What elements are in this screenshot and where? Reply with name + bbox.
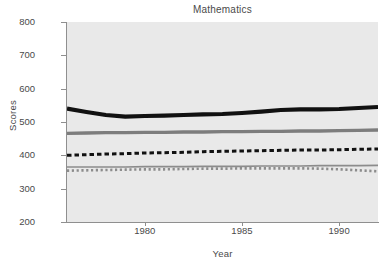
y-tick-mark — [61, 155, 67, 156]
y-tick-mark — [61, 55, 67, 56]
x-tick-mark — [339, 222, 340, 226]
x-tick-label: 1980 — [125, 226, 165, 236]
x-tick-mark — [242, 222, 243, 226]
series-5-gray-dotted — [67, 168, 378, 171]
y-tick-label: 200 — [1, 217, 35, 227]
series-3-black-dashed — [67, 149, 378, 155]
series-4-gray-thin — [67, 165, 378, 167]
y-tick-mark — [61, 189, 67, 190]
chart-title: Mathematics — [67, 4, 378, 15]
y-tick-label: 400 — [1, 150, 35, 160]
y-tick-mark — [61, 222, 67, 223]
series-2-gray-thick — [67, 130, 378, 133]
series-1-black-thick — [67, 107, 378, 117]
x-axis-line — [66, 222, 379, 223]
x-tick-mark — [145, 222, 146, 226]
y-tick-mark — [61, 22, 67, 23]
x-tick-label: 1990 — [319, 226, 359, 236]
x-tick-label: 1985 — [222, 226, 262, 236]
y-tick-label: 600 — [1, 84, 35, 94]
y-tick-label: 700 — [1, 50, 35, 60]
chart-figure: Mathematics Scores 800700600500400300200… — [0, 0, 388, 272]
y-tick-label: 300 — [1, 184, 35, 194]
y-tick-label: 500 — [1, 117, 35, 127]
y-tick-label: 800 — [1, 17, 35, 27]
y-axis-title: Scores — [7, 86, 18, 146]
y-tick-mark — [61, 122, 67, 123]
y-tick-mark — [61, 89, 67, 90]
series-layer — [67, 22, 378, 222]
x-axis-title: Year — [67, 248, 378, 259]
